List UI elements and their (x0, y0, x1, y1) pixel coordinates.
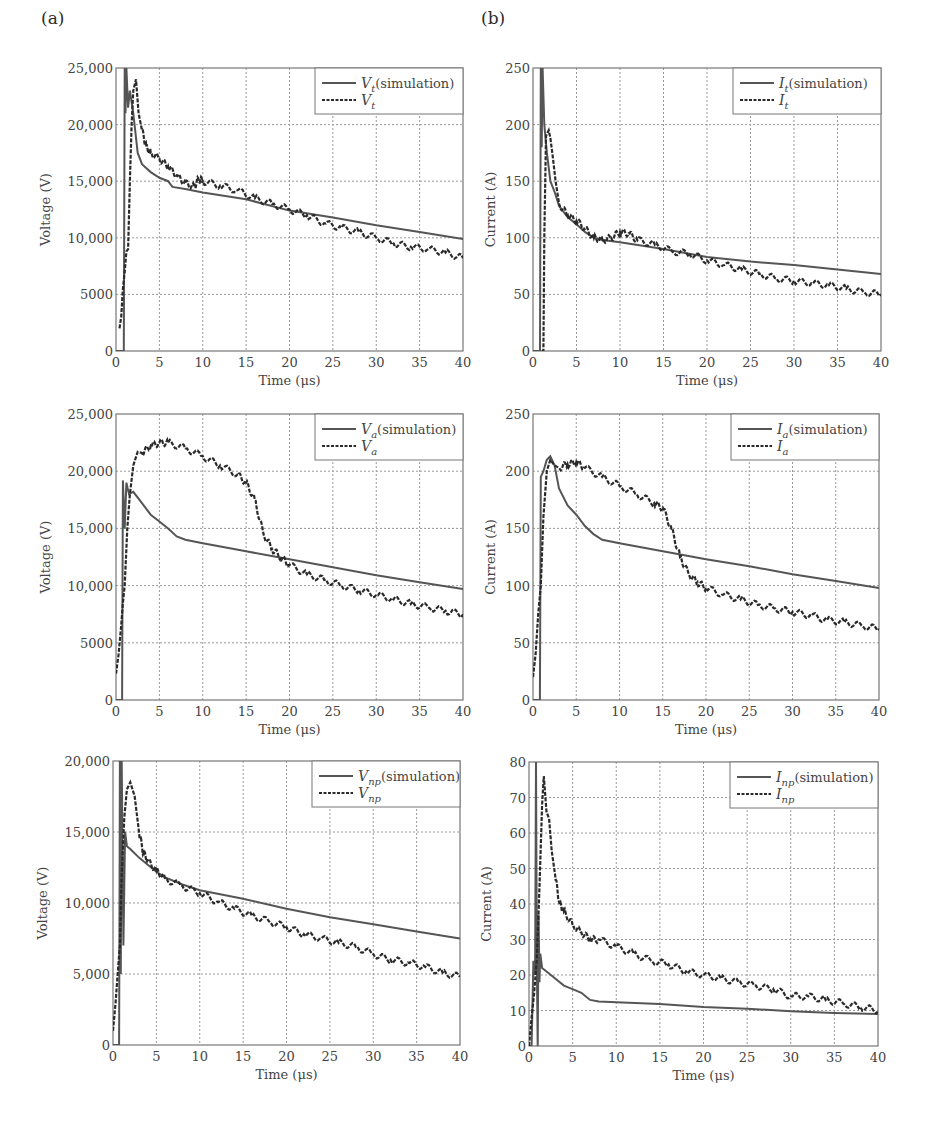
x-tick-label: 30 (782, 1050, 799, 1065)
chart-inp: 051015202530354001020304050607080Time (μ… (479, 755, 886, 1083)
x-tick-label: 0 (525, 1050, 533, 1065)
x-axis-label: Time (μs) (672, 1068, 734, 1083)
x-tick-label: 35 (826, 1050, 843, 1065)
chart-inp: 051015202530354001020304050607080Time (μ… (0, 0, 925, 1121)
x-tick-label: 25 (739, 1050, 756, 1065)
y-tick-label: 10 (509, 1004, 526, 1019)
x-tick-label: 5 (568, 1050, 576, 1065)
y-tick-label: 20 (509, 968, 526, 983)
y-tick-label: 80 (509, 755, 526, 770)
x-tick-label: 15 (652, 1050, 669, 1065)
x-tick-label: 20 (695, 1050, 712, 1065)
y-tick-label: 30 (509, 933, 526, 948)
y-axis-label: Current (A) (479, 866, 494, 942)
y-tick-label: 50 (509, 862, 526, 877)
y-tick-label: 40 (509, 897, 526, 912)
legend: Inp(simulation)Inp (730, 762, 878, 808)
x-tick-label: 10 (608, 1050, 625, 1065)
y-tick-label: 70 (509, 791, 526, 806)
y-tick-label: 60 (509, 826, 526, 841)
x-tick-label: 40 (870, 1050, 887, 1065)
y-tick-label: 0 (518, 1039, 526, 1054)
